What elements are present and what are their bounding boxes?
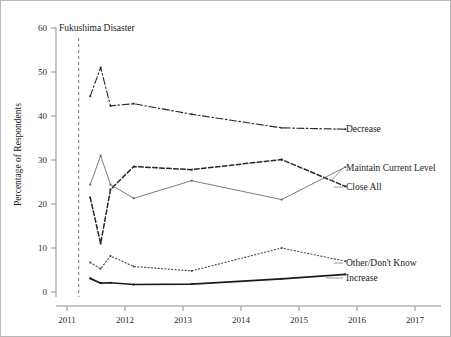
data-point-marker — [110, 282, 112, 284]
y-tick-label-10: 10 — [38, 243, 48, 253]
x-tick-label-2013: 2013 — [174, 315, 193, 325]
series-label-decrease: Decrease — [346, 124, 381, 134]
data-point-marker — [110, 255, 112, 257]
x-tick-label-2017: 2017 — [406, 315, 425, 325]
series-line — [90, 156, 345, 200]
leader-maintain — [331, 168, 343, 181]
series-line — [90, 248, 345, 271]
data-point-marker — [281, 159, 283, 161]
series-label-close-all: Close All — [346, 182, 382, 192]
series-line — [90, 274, 345, 284]
data-point-marker — [89, 95, 91, 97]
fukushima-annotation: Fukushima Disaster — [59, 23, 136, 297]
y-tick-label-20: 20 — [38, 199, 48, 209]
series-line — [90, 68, 345, 130]
series-line — [90, 160, 345, 244]
data-point-marker — [89, 197, 91, 199]
data-point-marker — [100, 155, 102, 157]
data-point-marker — [110, 189, 112, 191]
data-point-marker — [133, 197, 135, 199]
data-point-marker — [110, 105, 112, 107]
series-label-increase: Increase — [346, 273, 378, 283]
series-label-group: Decrease Maintain Current Level Close Al… — [326, 124, 436, 283]
y-axis: 60 50 40 30 20 10 0 Percentage of Respon… — [13, 23, 56, 297]
data-point-marker — [191, 113, 193, 115]
data-point-marker — [100, 268, 102, 270]
y-tick-label-40: 40 — [38, 111, 48, 121]
data-point-marker — [281, 247, 283, 249]
series-label-other: Other/Don't Know — [346, 258, 417, 268]
x-axis: 2011 2012 2013 2014 2015 2016 2017 — [56, 306, 441, 325]
y-tick-label-30: 30 — [38, 155, 48, 165]
data-point-marker — [100, 243, 102, 245]
series-decrease — [89, 67, 346, 130]
data-point-marker — [191, 180, 193, 182]
series-layer — [89, 67, 346, 286]
data-point-marker — [89, 184, 91, 186]
line-chart-svg: 60 50 40 30 20 10 0 Percentage of Respon… — [1, 1, 451, 337]
chart-figure: 60 50 40 30 20 10 0 Percentage of Respon… — [0, 0, 451, 337]
data-point-marker — [89, 277, 91, 279]
data-point-marker — [89, 262, 91, 264]
data-point-marker — [191, 270, 193, 272]
x-tick-label-2012: 2012 — [116, 315, 134, 325]
series-label-maintain: Maintain Current Level — [346, 163, 436, 173]
fukushima-event-label: Fukushima Disaster — [59, 23, 136, 33]
data-point-marker — [100, 67, 102, 69]
data-point-marker — [191, 169, 193, 171]
series-other-don-t-know — [89, 247, 346, 272]
series-increase — [89, 274, 346, 286]
x-tick-label-2015: 2015 — [290, 315, 309, 325]
data-point-marker — [281, 278, 283, 280]
data-point-marker — [133, 166, 135, 168]
data-point-marker — [281, 199, 283, 201]
y-axis-title: Percentage of Respondents — [13, 103, 23, 206]
series-maintain-current-level — [89, 155, 346, 201]
y-tick-label-0: 0 — [43, 287, 48, 297]
x-tick-label-2011: 2011 — [58, 315, 76, 325]
data-point-marker — [133, 266, 135, 268]
y-tick-label-50: 50 — [38, 67, 48, 77]
data-point-marker — [110, 184, 112, 186]
data-point-marker — [191, 283, 193, 285]
data-point-marker — [281, 127, 283, 129]
y-tick-label-60: 60 — [38, 23, 48, 33]
data-point-marker — [133, 103, 135, 105]
x-tick-label-2016: 2016 — [348, 315, 367, 325]
data-point-marker — [100, 282, 102, 284]
data-point-marker — [133, 284, 135, 286]
x-tick-label-2014: 2014 — [232, 315, 251, 325]
series-close-all — [89, 159, 346, 245]
